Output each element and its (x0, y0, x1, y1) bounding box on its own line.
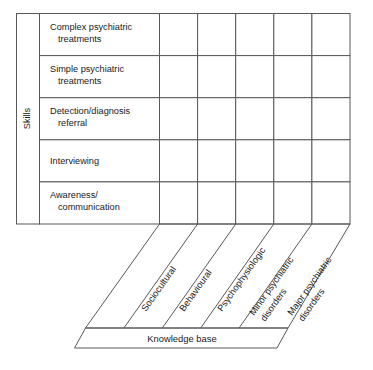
row-label-text: Awareness/ (50, 190, 98, 200)
column-label-text: Sociocultural (139, 264, 178, 313)
matrix-cell (160, 140, 198, 182)
row-label-text: Interviewing (50, 156, 99, 166)
row-label-text: referral (58, 118, 87, 128)
matrix-cell (274, 56, 312, 98)
skills-axis-title: Skills (22, 107, 32, 129)
matrix-cell (274, 140, 312, 182)
row-label-text: communication (58, 202, 120, 212)
matrix-cell (274, 14, 312, 56)
matrix-cell (236, 140, 274, 182)
matrix-cell (312, 182, 350, 224)
matrix-cell (198, 56, 236, 98)
matrix-cell (312, 56, 350, 98)
matrix-cell (236, 98, 274, 140)
matrix-cell (312, 140, 350, 182)
matrix-cell (160, 14, 198, 56)
matrix-cell (236, 182, 274, 224)
matrix-cell (198, 182, 236, 224)
matrix-cell (198, 98, 236, 140)
row-label-text: treatments (58, 76, 102, 86)
knowledge-base-title: Knowledge base (147, 333, 216, 344)
matrix-cell (160, 182, 198, 224)
matrix-diagram: Skills Complex psychiatric treatments Si… (0, 0, 373, 370)
row-label-text: treatments (58, 34, 102, 44)
row-label-text: Simple psychiatric (50, 64, 124, 74)
matrix-cell (312, 14, 350, 56)
matrix-cell (160, 98, 198, 140)
column-label-text: Behavioural (177, 268, 213, 313)
matrix-cell (160, 56, 198, 98)
matrix-cell (236, 56, 274, 98)
matrix-cell (198, 14, 236, 56)
matrix-cell (198, 140, 236, 182)
matrix-cell (312, 98, 350, 140)
row-label-text: Detection/diagnosis (50, 106, 131, 116)
diagram-canvas: Skills Complex psychiatric treatments Si… (0, 0, 373, 370)
matrix-cell (274, 98, 312, 140)
matrix-cell (274, 182, 312, 224)
matrix-cell (236, 14, 274, 56)
row-label-text: Complex psychiatric (50, 22, 133, 32)
